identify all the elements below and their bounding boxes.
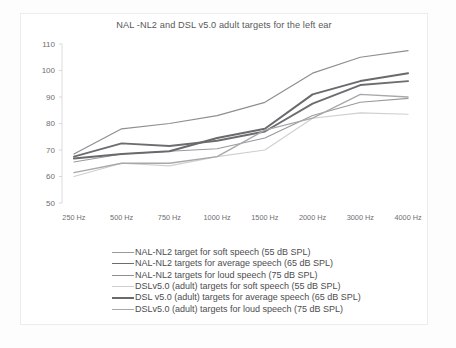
x-tick-label: 3000 Hz <box>347 213 375 222</box>
y-tick-label: 80 <box>46 119 55 128</box>
x-tick-label: 500 Hz <box>110 213 133 222</box>
legend-swatch-line-icon <box>112 297 134 299</box>
series-line-2 <box>74 81 408 157</box>
series-line-1 <box>74 98 408 162</box>
legend-label: NAL-NL2 target for soft speech (55 dB SP… <box>135 247 311 258</box>
legend-label: DSLv5.0 (adult) targets for soft speech … <box>135 281 341 292</box>
legend-item-3[interactable]: NAL-NL2 targets for loud speech (75 dB S… <box>112 270 412 281</box>
series-line-4 <box>74 113 408 177</box>
legend-label: NAL-NL2 targets for average speech (65 d… <box>135 258 333 269</box>
legend-item-1[interactable]: NAL-NL2 target for soft speech (55 dB SP… <box>112 247 412 258</box>
y-tick-label: 70 <box>46 146 55 155</box>
x-tick-label: 750 Hz <box>158 213 181 222</box>
x-tick-label: 1500 Hz <box>251 213 279 222</box>
legend-swatch-line-icon <box>112 263 134 264</box>
x-axis: 250 Hz500 Hz750 Hz1000 Hz1500 Hz2000 Hz3… <box>62 213 422 222</box>
legend-swatch-line-icon <box>112 252 134 253</box>
y-tick-label: 50 <box>46 199 55 208</box>
legend-item-2[interactable]: NAL-NL2 targets for average speech (65 d… <box>112 258 412 269</box>
x-tick-label: 2000 Hz <box>299 213 327 222</box>
chart-legend: NAL-NL2 target for soft speech (55 dB SP… <box>112 247 412 315</box>
legend-label: DSL v5.0 (adult) targets for average spe… <box>135 292 361 303</box>
y-tick-label: 100 <box>42 66 56 75</box>
y-axis: 5060708090100110 <box>42 40 62 208</box>
legend-label: NAL-NL2 targets for loud speech (75 dB S… <box>135 270 318 281</box>
chart-page: NAL -NL2 and DSL v5.0 adult targets for … <box>0 0 456 348</box>
legend-item-5[interactable]: DSL v5.0 (adult) targets for average spe… <box>112 292 412 303</box>
series-line-3 <box>74 51 408 154</box>
legend-item-6[interactable]: DSLv5.0 (adult) targets for loud speech … <box>112 303 412 314</box>
legend-item-4[interactable]: DSLv5.0 (adult) targets for soft speech … <box>112 281 412 292</box>
legend-swatch-line-icon <box>112 309 134 310</box>
legend-swatch-line-icon <box>112 275 134 276</box>
x-tick-label: 1000 Hz <box>204 213 232 222</box>
legend-swatch-line-icon <box>112 286 134 287</box>
x-tick-label: 4000 Hz <box>394 213 422 222</box>
series-lines <box>74 51 408 177</box>
x-tick-label: 250 Hz <box>62 213 85 222</box>
legend-label: DSLv5.0 (adult) targets for loud speech … <box>135 304 343 315</box>
y-tick-label: 60 <box>46 172 55 181</box>
y-tick-label: 110 <box>42 40 55 49</box>
y-tick-label: 90 <box>46 93 55 102</box>
